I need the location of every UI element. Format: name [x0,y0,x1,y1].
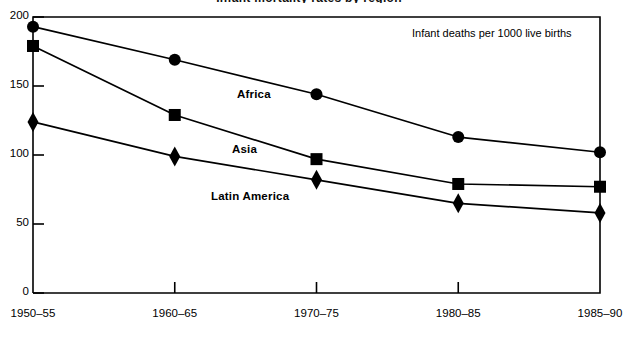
y-tick-label: 150 [0,78,29,90]
series-label-asia: Asia [232,143,257,155]
series-label-africa: Africa [237,88,271,100]
chart-series-group [27,21,606,223]
y-tick-label: 50 [0,216,29,228]
x-tick-label: 1980–85 [413,307,503,319]
series-label-latin-america: Latin America [211,190,289,202]
y-tick-label: 0 [0,285,29,297]
x-tick-label: 1950–55 [0,307,78,319]
x-tick-label: 1960–65 [130,307,220,319]
x-tick-label: 1985–90 [555,307,627,319]
x-tick-label: 1970–75 [272,307,362,319]
y-tick-label: 200 [0,9,29,21]
y-tick-label: 100 [0,147,29,159]
chart-annotation: Infant deaths per 1000 live births [412,27,572,39]
